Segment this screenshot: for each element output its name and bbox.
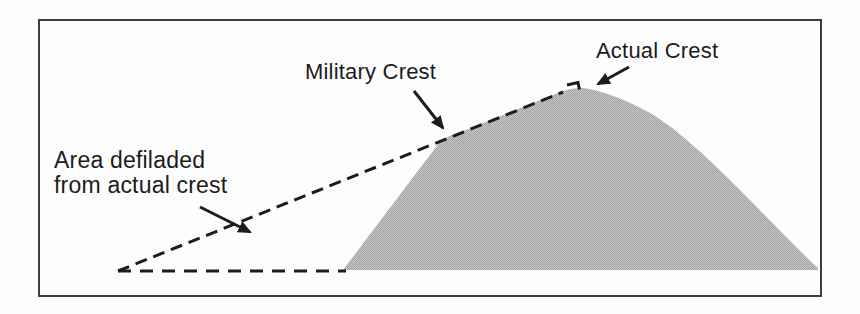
label-area-defiladed: Area defiladed from actual crest [54, 148, 227, 198]
label-actual-crest: Actual Crest [596, 39, 718, 63]
actual-crest-arrow [598, 67, 629, 84]
label-area-defiladed-line2: from actual crest [54, 173, 227, 198]
label-military-crest: Military Crest [305, 60, 436, 84]
hill-silhouette [343, 88, 818, 270]
terrain-diagram: Military Crest Actual Crest Area defilad… [0, 0, 860, 314]
military-crest-arrow [414, 91, 443, 128]
label-area-defiladed-line1: Area defiladed [54, 148, 227, 173]
